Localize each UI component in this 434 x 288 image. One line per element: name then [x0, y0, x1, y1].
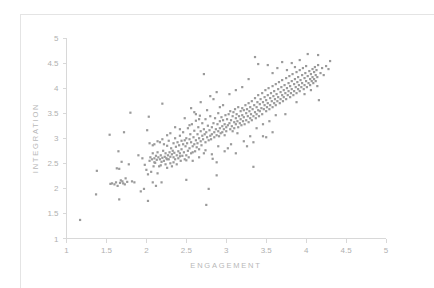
- scatter-point: [244, 104, 246, 106]
- scatter-point: [297, 88, 299, 90]
- scatter-point: [235, 152, 237, 154]
- scatter-point: [193, 143, 195, 145]
- scatter-point: [180, 148, 182, 150]
- scatter-point: [200, 101, 202, 103]
- scatter-point: [230, 119, 232, 121]
- scatter-point: [284, 92, 286, 94]
- scatter-point: [190, 107, 192, 109]
- scatter-point: [192, 151, 194, 153]
- scatter-point: [260, 98, 262, 100]
- scatter-point: [269, 104, 271, 106]
- scatter-point: [246, 108, 248, 110]
- scatter-point: [143, 188, 145, 190]
- scatter-point: [275, 83, 277, 85]
- scatter-point: [196, 146, 198, 148]
- scatter-point: [179, 152, 181, 154]
- scatter-point: [211, 153, 213, 155]
- scatter-point: [233, 127, 235, 129]
- scatter-point: [291, 62, 293, 64]
- scatter-point: [304, 72, 306, 74]
- scatter-point: [166, 145, 168, 147]
- scatter-point: [247, 115, 249, 117]
- scatter-point: [161, 103, 163, 105]
- scatter-point: [219, 127, 221, 129]
- scatter-point: [192, 160, 194, 162]
- scatter-point: [217, 130, 219, 132]
- scatter-point: [193, 130, 195, 132]
- scatter-point: [180, 140, 182, 142]
- scatter-point: [174, 158, 176, 160]
- scatter-point: [166, 167, 168, 169]
- scatter-point: [208, 188, 210, 190]
- scatter-point: [279, 102, 281, 104]
- scatter-point: [246, 145, 248, 147]
- scatter-point: [252, 115, 254, 117]
- scatter-point: [281, 79, 283, 81]
- scatter-point: [229, 110, 231, 112]
- scatter-point: [185, 179, 187, 181]
- scatter-plot-figure: 11.522.533.544.55 11.522.533.544.55 ENGA…: [0, 0, 434, 288]
- scatter-point: [256, 106, 258, 108]
- scatter-point: [175, 146, 177, 148]
- scatter-point: [251, 100, 253, 102]
- scatter-point: [166, 134, 168, 136]
- x-axis-ticks: 11.522.533.544.55: [64, 239, 389, 255]
- scatter-point: [271, 72, 273, 74]
- scatter-point: [186, 142, 188, 144]
- scatter-plot-canvas: 11.522.533.544.55 11.522.533.544.55 ENGA…: [0, 0, 434, 288]
- scatter-point: [267, 64, 269, 66]
- scatter-point: [193, 111, 195, 113]
- scatter-point: [263, 108, 265, 110]
- scatter-point: [131, 180, 133, 182]
- scatter-point: [266, 106, 268, 108]
- scatter-point: [232, 130, 234, 132]
- y-tick-label: 3.5: [47, 109, 59, 118]
- scatter-point: [289, 85, 291, 87]
- scatter-point: [203, 73, 205, 75]
- scatter-point: [235, 117, 237, 119]
- scatter-point: [179, 155, 181, 157]
- y-tick-label: 4.5: [47, 59, 59, 68]
- scatter-point: [249, 117, 251, 119]
- scatter-point: [205, 131, 207, 133]
- scatter-point: [162, 150, 164, 152]
- scatter-point: [169, 156, 171, 158]
- scatter-point: [299, 69, 301, 71]
- scatter-point: [211, 126, 213, 128]
- scatter-point: [121, 161, 123, 163]
- x-axis-title: ENGAGEMENT: [190, 261, 261, 270]
- scatter-point: [287, 94, 289, 96]
- y-tick-label: 5: [54, 34, 59, 43]
- scatter-point: [273, 90, 275, 92]
- scatter-point: [257, 94, 259, 96]
- scatter-point: [189, 133, 191, 135]
- scatter-point: [276, 100, 278, 102]
- scatter-point: [153, 157, 155, 159]
- scatter-point: [225, 126, 227, 128]
- scatter-point: [317, 64, 319, 66]
- scatter-point: [126, 181, 128, 183]
- scatter-point: [194, 150, 196, 152]
- scatter-point: [279, 98, 281, 100]
- scatter-point: [241, 107, 243, 109]
- scatter-point: [277, 96, 279, 98]
- scatter-point: [118, 198, 120, 200]
- scatter-point: [201, 122, 203, 124]
- scatter-point: [196, 133, 198, 135]
- scatter-point: [280, 86, 282, 88]
- x-tick-label: 1.5: [101, 246, 113, 255]
- scatter-point: [256, 127, 258, 129]
- scatter-point: [268, 108, 270, 110]
- scatter-point: [195, 120, 197, 122]
- scatter-point: [251, 119, 253, 121]
- scatter-point: [257, 63, 259, 65]
- scatter-point: [249, 135, 251, 137]
- scatter-point: [236, 120, 238, 122]
- scatter-point: [159, 158, 161, 160]
- scatter-point: [188, 147, 190, 149]
- scatter-point: [156, 159, 158, 161]
- scatter-point: [305, 65, 307, 67]
- scatter-point: [113, 183, 115, 185]
- scatter-point: [287, 82, 289, 84]
- scatter-point: [245, 112, 247, 114]
